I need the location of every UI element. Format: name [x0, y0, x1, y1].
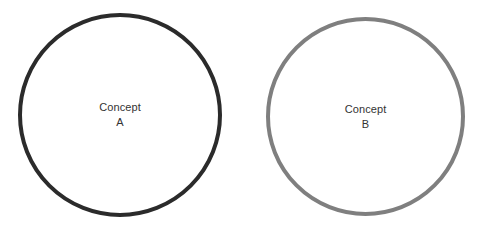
concept-b-label-line-2: B	[345, 117, 387, 132]
concept-b-label-line-1: Concept	[345, 102, 387, 117]
concept-circle-b[interactable]: Concept B	[266, 17, 465, 216]
concept-circle-a[interactable]: Concept A	[18, 13, 222, 217]
concept-a-label-line-2: A	[99, 115, 141, 130]
concept-a-label: Concept A	[99, 100, 141, 130]
concept-b-label: Concept B	[345, 102, 387, 132]
concept-a-label-line-1: Concept	[99, 100, 141, 115]
diagram-canvas: Concept A Concept B	[0, 0, 489, 228]
